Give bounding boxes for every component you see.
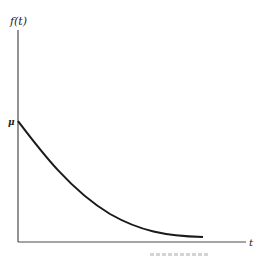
- x-axis-label: t: [249, 237, 254, 248]
- y-tick-mu: μ: [8, 117, 15, 127]
- chart: f(t) t μ: [0, 0, 258, 258]
- decay-curve: [18, 121, 203, 237]
- y-axis-label: f(t): [9, 15, 27, 28]
- figure-caption-cropped: [150, 253, 210, 256]
